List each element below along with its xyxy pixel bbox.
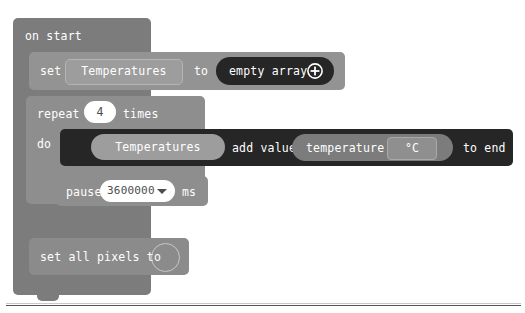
array-add-value-block[interactable]: Temperatures add value temperature in °C… bbox=[60, 129, 513, 166]
block-editor-canvas: on start set Temperatures to empty array… bbox=[0, 0, 525, 313]
chevron-down-icon[interactable] bbox=[157, 189, 167, 194]
pause-keyword-label: pause bbox=[66, 185, 102, 199]
temperature-reporter-block[interactable]: temperature in °C bbox=[292, 134, 453, 161]
repeat-keyword-label: repeat bbox=[37, 107, 80, 121]
set-keyword-label: set bbox=[40, 64, 61, 78]
set-all-pixels-label: set all pixels to bbox=[40, 250, 161, 264]
to-keyword-label: to bbox=[194, 64, 208, 78]
on-start-label: on start bbox=[25, 29, 82, 43]
bottom-divider-highlight bbox=[6, 303, 521, 304]
repeat-count-field[interactable]: 4 bbox=[84, 101, 116, 123]
bottom-divider bbox=[6, 305, 521, 306]
add-value-label: add value bbox=[232, 141, 296, 155]
pause-duration-dropdown[interactable]: 3600000 bbox=[100, 180, 175, 202]
set-variable-block[interactable]: set Temperatures to empty array bbox=[29, 52, 345, 90]
variable-name-field[interactable]: Temperatures bbox=[65, 59, 183, 85]
plus-circle-icon[interactable] bbox=[307, 63, 323, 79]
set-all-pixels-block[interactable]: set all pixels to bbox=[29, 238, 189, 275]
block-bottom-notch bbox=[37, 294, 59, 301]
empty-array-label: empty array bbox=[229, 57, 307, 85]
color-picker-slot[interactable] bbox=[151, 243, 180, 272]
times-keyword-label: times bbox=[123, 107, 159, 121]
pause-block[interactable]: pause 3600000 ms bbox=[56, 176, 208, 206]
empty-array-reporter-block[interactable]: empty array bbox=[216, 57, 334, 85]
pause-unit-label: ms bbox=[182, 185, 196, 199]
do-keyword-label: do bbox=[37, 137, 51, 151]
temperature-unit-dropdown[interactable]: °C bbox=[387, 137, 437, 160]
array-variable-reporter[interactable]: Temperatures bbox=[91, 134, 225, 160]
pause-duration-value: 3600000 bbox=[107, 184, 155, 197]
to-end-label: to end bbox=[463, 141, 506, 155]
